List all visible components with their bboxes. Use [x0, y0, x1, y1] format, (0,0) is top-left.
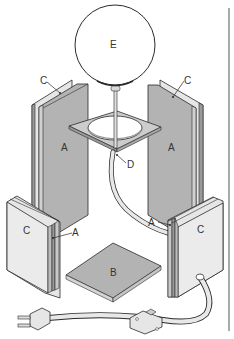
label-a-front-left: A: [72, 227, 79, 238]
plug: [18, 308, 50, 330]
label-c-front-right: C: [197, 224, 204, 235]
label-c-top-left: C: [40, 75, 47, 86]
label-e: E: [110, 39, 117, 50]
label-c-top-right: C: [184, 75, 191, 86]
bulb-stem: [114, 88, 117, 148]
label-c-front-left: C: [23, 225, 30, 236]
lamp-exploded-diagram: E C C A A D C A A C B: [0, 0, 234, 339]
label-d: D: [127, 159, 134, 170]
label-a-back-right: A: [168, 142, 175, 153]
inline-switch: [130, 309, 162, 334]
label-a-front-right: A: [148, 217, 155, 228]
label-a-back-left: A: [61, 142, 68, 153]
label-b: B: [110, 267, 117, 278]
